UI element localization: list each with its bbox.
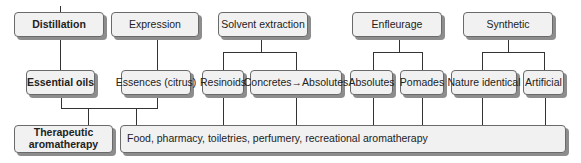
connector-enfleurage-bar bbox=[373, 52, 423, 53]
connector-absolutes-down bbox=[373, 95, 374, 125]
product-label: Artificial bbox=[525, 77, 562, 89]
connector-nature-down bbox=[482, 95, 483, 125]
connector-pomades-down bbox=[422, 95, 423, 125]
connector-concretes-down bbox=[296, 95, 297, 125]
method-enfleurage: Enfleurage bbox=[352, 12, 442, 37]
connector-artificial-down bbox=[545, 95, 546, 125]
product-concretes-absolutes: Concretes→Absolutes bbox=[250, 70, 342, 95]
connector-essences-down bbox=[157, 95, 158, 108]
connector-enfleurage-stem bbox=[399, 37, 400, 52]
connector-solvent-bar bbox=[223, 52, 297, 53]
method-synthetic: Synthetic bbox=[463, 12, 553, 37]
connector-expression bbox=[157, 37, 158, 70]
connector-resinoids-down bbox=[223, 95, 224, 125]
connector-essential-down bbox=[61, 95, 62, 108]
method-label: Expression bbox=[129, 19, 181, 31]
use-general-applications: Food, pharmacy, toiletries, perfumery, r… bbox=[120, 125, 566, 153]
product-artificial: Artificial bbox=[523, 70, 564, 95]
product-essential-oils: Essential oils bbox=[26, 70, 95, 95]
product-label: Essences (citrus) bbox=[116, 77, 197, 89]
connector-nature-identical bbox=[482, 52, 483, 70]
use-therapeutic-aromatherapy: Therapeutic aromatherapy bbox=[14, 125, 113, 153]
connector-artificial bbox=[544, 52, 545, 70]
connector-synthetic-stem bbox=[508, 37, 509, 52]
connector-synthetic-bar bbox=[482, 52, 545, 53]
product-essences-citrus: Essences (citrus) bbox=[121, 70, 191, 95]
product-label: Essential oils bbox=[27, 77, 94, 89]
product-label: Pomades bbox=[400, 77, 444, 89]
connector-to-therapeutic bbox=[88, 108, 89, 125]
connector-merge-bar bbox=[61, 108, 158, 109]
method-label: Synthetic bbox=[486, 19, 529, 31]
connector-solvent-stem bbox=[261, 37, 262, 52]
product-pomades: Pomades bbox=[400, 70, 444, 95]
connector-resinoids bbox=[223, 52, 224, 70]
use-label-line2: aromatherapy bbox=[29, 139, 98, 151]
method-label: Solvent extraction bbox=[221, 19, 304, 31]
product-nature-identical: Nature identical bbox=[451, 70, 517, 95]
product-label: Nature identical bbox=[448, 77, 521, 89]
product-label: Concretes→Absolutes bbox=[244, 77, 348, 89]
method-solvent-extraction: Solvent extraction bbox=[218, 12, 308, 37]
product-resinoids: Resinoids bbox=[202, 70, 244, 95]
method-label: Distillation bbox=[32, 19, 86, 31]
connector-to-food bbox=[136, 108, 137, 125]
product-label: Absolutes bbox=[348, 77, 394, 89]
method-expression: Expression bbox=[111, 12, 199, 37]
method-distillation: Distillation bbox=[14, 12, 104, 37]
connector-pomades bbox=[422, 52, 423, 70]
product-absolutes: Absolutes bbox=[350, 70, 393, 95]
product-label: Resinoids bbox=[200, 77, 246, 89]
use-label: Food, pharmacy, toiletries, perfumery, r… bbox=[127, 133, 428, 145]
connector-concretes bbox=[296, 52, 297, 70]
connector-distillation bbox=[60, 37, 61, 70]
method-label: Enfleurage bbox=[372, 19, 423, 31]
connector-absolutes bbox=[373, 52, 374, 70]
